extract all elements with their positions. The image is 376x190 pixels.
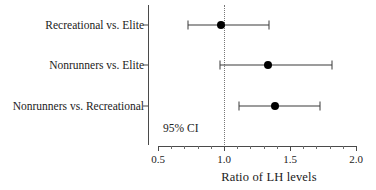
x-axis-tick-label-1: 0.5 xyxy=(151,153,165,165)
x-axis-minor-tick-1.4 xyxy=(277,146,278,149)
x-axis-tick-label-2: 1.0 xyxy=(217,153,231,165)
y-axis-tick-1 xyxy=(143,25,149,26)
forest-plot-figure: Recreational vs. EliteNonrunners vs. Eli… xyxy=(0,0,376,190)
ci-whisker-line-1 xyxy=(188,25,269,26)
x-axis-minor-tick-1.1 xyxy=(237,146,238,149)
x-axis-minor-tick-1.2 xyxy=(250,146,251,149)
x-axis-tick-label-3: 1.5 xyxy=(283,153,297,165)
x-axis-major-tick-1 xyxy=(224,146,225,151)
x-axis-minor-tick-1.3 xyxy=(264,146,265,149)
ci-cap-high-2 xyxy=(332,61,333,70)
ci-cap-low-3 xyxy=(238,102,239,111)
y-axis-tick-2 xyxy=(143,65,149,66)
x-axis-title: Ratio of LH levels xyxy=(0,170,376,184)
x-axis-minor-tick-1.9 xyxy=(343,146,344,149)
x-axis-major-tick-0.5 xyxy=(158,146,159,151)
ci-annotation-label: 95% CI xyxy=(163,122,198,135)
ci-whisker-line-2 xyxy=(220,65,332,66)
ci-cap-high-1 xyxy=(268,21,269,30)
x-axis-major-tick-2 xyxy=(356,146,357,151)
x-axis-title-text: Ratio of LH levels xyxy=(221,170,316,184)
ci-cap-low-2 xyxy=(220,61,221,70)
estimate-marker-1 xyxy=(217,21,225,29)
x-axis-major-tick-1.5 xyxy=(290,146,291,151)
x-axis-minor-tick-1.7 xyxy=(316,146,317,149)
x-axis-minor-tick-1.6 xyxy=(303,146,304,149)
estimate-marker-2 xyxy=(264,61,272,69)
x-axis-minor-tick-0.9 xyxy=(211,146,212,149)
x-axis-spine xyxy=(158,146,356,147)
x-axis-minor-tick-1.8 xyxy=(330,146,331,149)
y-axis-tick-3 xyxy=(143,106,149,107)
y-axis-spine xyxy=(148,5,149,145)
x-axis-minor-tick-0.6 xyxy=(171,146,172,149)
estimate-marker-3 xyxy=(271,102,279,110)
ci-cap-high-3 xyxy=(320,102,321,111)
plot-area: 0.51.01.52.0 95% CI Ratio of LH levels xyxy=(0,0,376,190)
x-axis-minor-tick-0.8 xyxy=(198,146,199,149)
x-axis-minor-tick-0.7 xyxy=(184,146,185,149)
ci-cap-low-1 xyxy=(188,21,189,30)
x-axis-tick-label-4: 2.0 xyxy=(349,153,363,165)
